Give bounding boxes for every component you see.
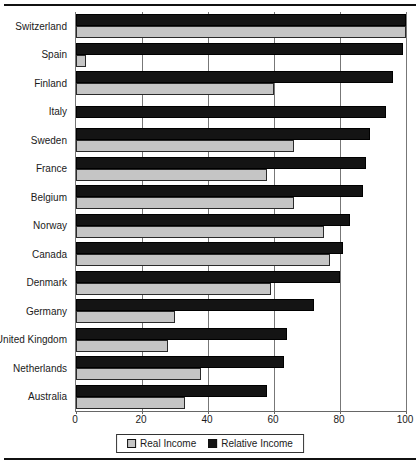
x-tick-label-40: 40	[201, 414, 212, 425]
category-label: Italy	[0, 98, 71, 127]
bar-group-france	[76, 155, 406, 184]
bar-relative-income	[76, 71, 393, 83]
legend-label: Real Income	[140, 438, 196, 449]
bar-relative-income	[76, 185, 363, 197]
bar-group-switzerland	[76, 12, 406, 41]
category-label: Denmark	[0, 269, 71, 298]
bar-real-income	[76, 169, 267, 181]
bar-group-belgium	[76, 183, 406, 212]
bar-real-income	[76, 55, 86, 67]
bar-group-netherlands	[76, 354, 406, 383]
legend-swatch-relative-income	[208, 439, 217, 448]
x-axis: 020406080100	[75, 414, 405, 427]
category-label: Germany	[0, 297, 71, 326]
bar-group-spain	[76, 41, 406, 70]
bar-group-australia	[76, 383, 406, 412]
bar-real-income	[76, 368, 201, 380]
legend-item-relative-income: Relative Income	[208, 438, 293, 449]
bar-group-denmark	[76, 269, 406, 298]
category-label: France	[0, 155, 71, 184]
bar-real-income	[76, 197, 294, 209]
bar-relative-income	[76, 106, 386, 118]
x-tick-label-80: 80	[333, 414, 344, 425]
category-label: Finland	[0, 69, 71, 98]
bar-real-income	[76, 254, 330, 266]
x-tick-label-0: 0	[72, 414, 78, 425]
category-label: United Kingdom	[0, 326, 71, 355]
bar-relative-income	[76, 128, 370, 140]
bar-real-income	[76, 340, 168, 352]
bar-relative-income	[76, 43, 403, 55]
bar-group-norway	[76, 212, 406, 241]
category-label: Australia	[0, 383, 71, 412]
category-label: Belgium	[0, 183, 71, 212]
category-label: Netherlands	[0, 354, 71, 383]
category-label: Switzerland	[0, 12, 71, 41]
bar-relative-income	[76, 14, 406, 26]
bar-real-income	[76, 226, 324, 238]
bar-real-income	[76, 83, 274, 95]
bar-real-income	[76, 397, 185, 409]
top-rule	[4, 4, 416, 6]
bar-relative-income	[76, 385, 267, 397]
x-tick-label-20: 20	[135, 414, 146, 425]
category-label: Norway	[0, 212, 71, 241]
bar-relative-income	[76, 328, 287, 340]
legend-swatch-real-income	[127, 439, 136, 448]
legend: Real IncomeRelative Income	[116, 434, 304, 453]
legend-label: Relative Income	[221, 438, 293, 449]
bar-real-income	[76, 140, 294, 152]
category-labels: SwitzerlandSpainFinlandItalySwedenFrance…	[0, 12, 71, 411]
bar-group-sweden	[76, 126, 406, 155]
category-label: Spain	[0, 41, 71, 70]
bar-group-germany	[76, 297, 406, 326]
bar-relative-income	[76, 299, 314, 311]
bar-group-united-kingdom	[76, 326, 406, 355]
bar-real-income	[76, 283, 271, 295]
bar-rows	[76, 12, 406, 411]
bar-group-italy	[76, 98, 406, 127]
gridline-100	[406, 12, 407, 411]
legend-item-real-income: Real Income	[127, 438, 196, 449]
x-tick-label-60: 60	[267, 414, 278, 425]
x-tick-label-100: 100	[397, 414, 414, 425]
bar-relative-income	[76, 157, 366, 169]
category-label: Canada	[0, 240, 71, 269]
bar-group-canada	[76, 240, 406, 269]
plot-area	[75, 12, 406, 412]
bar-real-income	[76, 311, 175, 323]
bar-real-income	[76, 26, 406, 38]
bottom-rule	[4, 458, 416, 460]
bar-relative-income	[76, 242, 343, 254]
bar-relative-income	[76, 356, 284, 368]
bar-relative-income	[76, 214, 350, 226]
category-label: Sweden	[0, 126, 71, 155]
bar-relative-income	[76, 271, 340, 283]
bar-group-finland	[76, 69, 406, 98]
